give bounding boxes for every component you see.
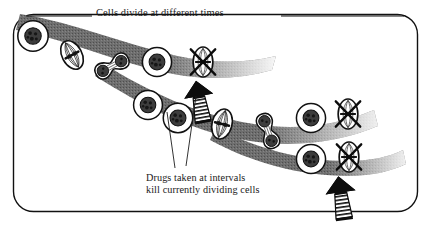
cell-cycle-diagram <box>0 0 431 238</box>
title-label: Cells divide at different times <box>96 7 224 18</box>
cell-killed <box>337 142 361 172</box>
cell-interphase <box>134 91 163 120</box>
drug-note-line1: Drugs taken at intervals <box>146 172 260 184</box>
cell-killed <box>191 47 215 77</box>
cell-interphase <box>142 47 171 76</box>
cell-interphase <box>296 144 325 173</box>
drug-arrow-lower <box>323 174 359 222</box>
drug-note-label: Drugs taken at intervals kill currently … <box>146 172 260 195</box>
cell-interphase <box>18 21 48 51</box>
cell-interphase <box>296 103 325 132</box>
drug-note-line2: kill currently dividing cells <box>146 184 260 196</box>
figure-canvas: Cells divide at different times Drugs ta… <box>0 0 431 238</box>
cell-killed <box>336 99 360 129</box>
